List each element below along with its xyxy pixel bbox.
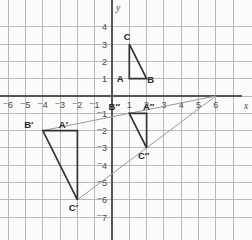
vertex-label: A′ bbox=[59, 119, 69, 130]
vertex-label: C bbox=[124, 31, 131, 42]
y-tick-label: –2 bbox=[97, 124, 107, 136]
vertex-label: B″ bbox=[109, 101, 121, 112]
y-tick-label: –4 bbox=[97, 158, 107, 170]
y-tick-label: –3 bbox=[97, 141, 107, 153]
x-tick-label: –4 bbox=[38, 98, 48, 110]
vertex-label: B′ bbox=[24, 119, 34, 130]
y-tick-label: –7 bbox=[97, 210, 107, 222]
y-tick-label: 4 bbox=[102, 22, 107, 32]
vertex-label: C″ bbox=[138, 150, 150, 161]
vertex-label: C′ bbox=[69, 202, 79, 213]
vertex-label: B bbox=[147, 74, 154, 85]
axes bbox=[0, 0, 242, 240]
vertex-label: A bbox=[117, 73, 124, 84]
coordinate-plane-figure: –6–5–4–3–2–11234564321–1–2–3–4–5–6–7xyAB… bbox=[0, 0, 252, 240]
vertex-label: A″ bbox=[143, 101, 155, 112]
x-tick-label: –3 bbox=[55, 98, 65, 110]
y-tick-label: –1 bbox=[97, 107, 107, 119]
y-axis-label: y bbox=[115, 3, 121, 13]
x-axis-label: x bbox=[243, 101, 249, 111]
x-tick-label: 6 bbox=[213, 100, 218, 110]
x-tick-label: 3 bbox=[161, 100, 166, 110]
tick-labels: –6–5–4–3–2–11234564321–1–2–3–4–5–6–7 bbox=[3, 22, 218, 222]
x-tick-label: 4 bbox=[179, 100, 184, 110]
y-tick-label: –6 bbox=[97, 193, 107, 205]
x-tick-label: –5 bbox=[21, 98, 31, 110]
y-tick-label: 1 bbox=[102, 74, 107, 84]
x-tick-label: –2 bbox=[72, 98, 82, 110]
coordinate-plane-svg: –6–5–4–3–2–11234564321–1–2–3–4–5–6–7xyAB… bbox=[0, 0, 252, 240]
x-tick-label: –6 bbox=[3, 98, 13, 110]
x-tick-label: 1 bbox=[127, 100, 132, 110]
y-tick-label: 2 bbox=[102, 57, 107, 67]
vertex-labels: ABCA′B′C′A″B″C″ bbox=[24, 31, 155, 213]
y-tick-label: 3 bbox=[102, 40, 107, 50]
